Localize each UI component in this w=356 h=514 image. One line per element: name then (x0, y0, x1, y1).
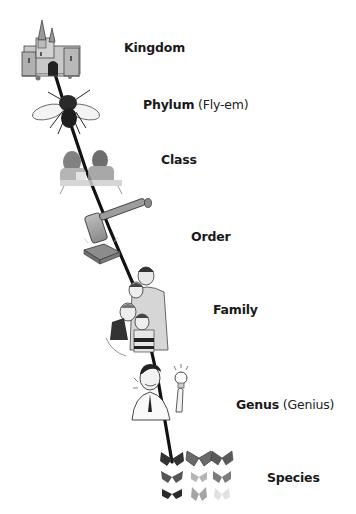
rank-name: Family (213, 302, 258, 317)
mnemonic-note: (Fly-em) (198, 97, 248, 112)
level-label-species: Species (267, 470, 320, 485)
taxonomy-diagram: Kingdom Phylum (Fly-em) Class Order Fami… (0, 0, 356, 514)
classroom-students-icon (60, 150, 122, 194)
rank-name: Order (191, 229, 230, 244)
butterflies-grid-icon (160, 451, 233, 501)
level-label-family: Family (213, 302, 258, 317)
level-label-phylum: Phylum (Fly-em) (143, 97, 248, 112)
rank-name: Species (267, 470, 320, 485)
mnemonic-note: (Genius) (283, 397, 334, 412)
diagram-illustrations (0, 0, 356, 514)
rank-name: Kingdom (124, 40, 185, 55)
level-label-order: Order (191, 229, 230, 244)
fly-icon (31, 90, 102, 134)
level-label-class: Class (161, 152, 197, 167)
rank-name: Phylum (143, 97, 194, 112)
level-label-genus: Genus (Genius) (236, 397, 334, 412)
gavel-icon (84, 198, 152, 264)
family-portrait-icon (106, 267, 168, 356)
rank-name: Class (161, 152, 197, 167)
rank-name: Genus (236, 397, 279, 412)
level-label-kingdom: Kingdom (124, 40, 185, 55)
castle-icon (22, 20, 80, 81)
